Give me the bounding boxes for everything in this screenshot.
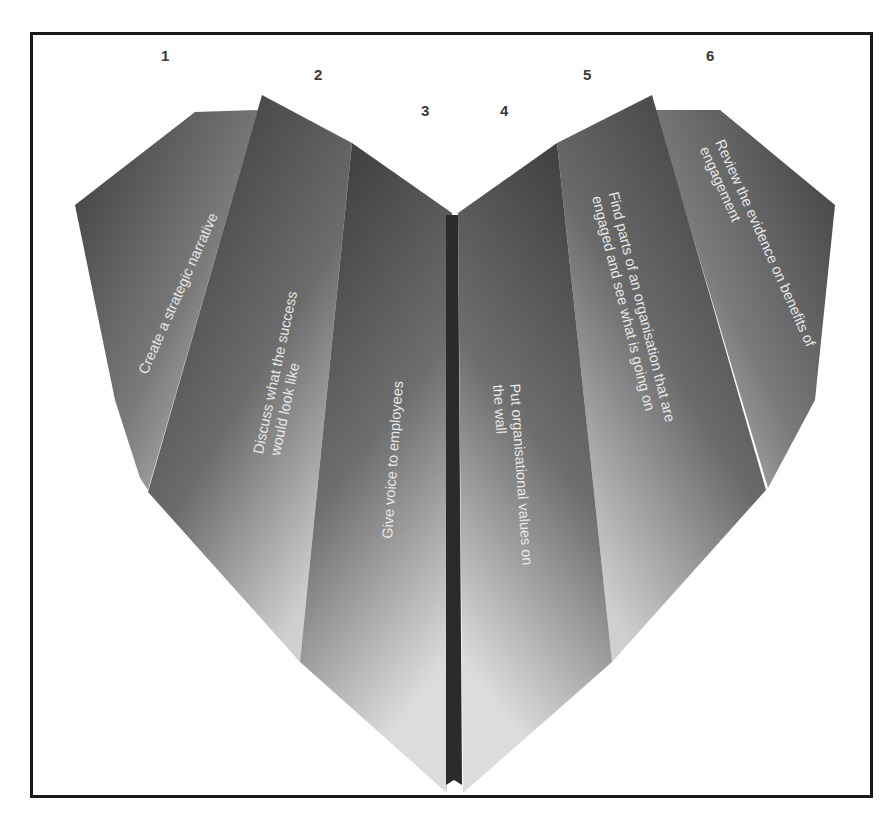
heart-diagram [0,0,895,832]
panel-number-3: 3 [421,102,429,119]
panel-number-6: 6 [706,47,714,64]
panel-number-5: 5 [583,66,591,83]
panel-number-4: 4 [500,102,508,119]
panel-number-2: 2 [314,66,322,83]
panel-number-1: 1 [161,47,169,64]
